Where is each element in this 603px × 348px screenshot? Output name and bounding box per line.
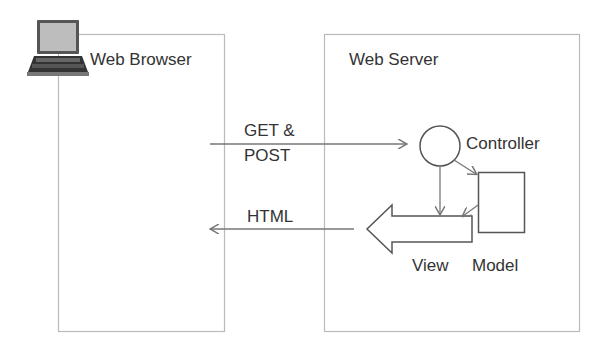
web-browser-label: Web Browser — [90, 50, 192, 70]
model-to-view-arrow — [463, 205, 478, 216]
web-server-label: Web Server — [349, 50, 438, 70]
laptop-icon — [27, 20, 89, 76]
response-label: HTML — [247, 207, 293, 227]
web-browser-box — [59, 35, 225, 332]
web-server-box — [325, 35, 580, 332]
controller-to-model-arrow — [454, 160, 476, 174]
view-label: View — [412, 256, 449, 276]
model-node — [479, 173, 525, 233]
request-label-line1: GET & — [244, 121, 295, 141]
request-label-line2: POST — [244, 146, 290, 166]
view-node — [367, 205, 472, 253]
controller-label: Controller — [466, 134, 540, 154]
model-label: Model — [472, 256, 518, 276]
